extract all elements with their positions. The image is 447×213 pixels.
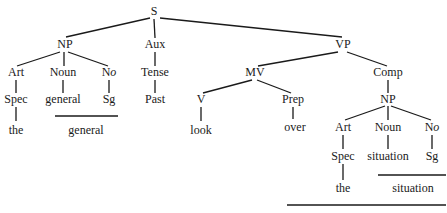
- node-np: NP: [57, 37, 73, 51]
- node-np-comp: NP: [380, 92, 396, 106]
- leaf-the-2: the: [336, 181, 351, 195]
- node-s: S: [151, 4, 158, 18]
- edge-s-aux: [154, 19, 155, 38]
- node-tense: Tense: [141, 65, 169, 79]
- edge-s-vp: [160, 18, 342, 37]
- edge-np2-no: [391, 106, 431, 120]
- edge-vp-mv: [258, 52, 338, 66]
- node-noun-2: Noun: [375, 120, 402, 134]
- node-sg-2: Sg: [426, 149, 439, 163]
- node-general: general: [45, 92, 81, 106]
- node-art-2: Art: [335, 120, 352, 134]
- surface-general: general: [68, 123, 104, 137]
- leaf-the: the: [9, 123, 24, 137]
- node-number-2: No: [425, 120, 440, 134]
- node-mv: MV: [245, 65, 265, 79]
- edge-mv-v: [203, 80, 252, 93]
- node-vp: VP: [335, 37, 351, 51]
- node-comp: Comp: [373, 65, 402, 79]
- syntax-tree-diagram: S NP Aux VP Art Noun No Tense MV Comp Sp…: [0, 0, 447, 213]
- node-sg: Sg: [103, 92, 116, 106]
- node-spec: Spec: [4, 92, 27, 106]
- leaf-over: over: [284, 120, 305, 134]
- node-prep: Prep: [282, 92, 304, 106]
- node-past: Past: [145, 92, 166, 106]
- leaf-look: look: [190, 123, 211, 137]
- node-spec-2: Spec: [331, 149, 354, 163]
- surface-situation: situation: [392, 181, 433, 195]
- node-number: No: [102, 65, 117, 79]
- node-noun: Noun: [50, 65, 77, 79]
- edge-s-np: [66, 18, 150, 37]
- node-art: Art: [8, 65, 25, 79]
- tree-nodes: S NP Aux VP Art Noun No Tense MV Comp Sp…: [4, 4, 439, 195]
- node-aux: Aux: [145, 37, 166, 51]
- tree-edges: [16, 18, 446, 205]
- edge-np2-art: [345, 106, 385, 120]
- node-v: V: [197, 92, 206, 106]
- node-situation: situation: [367, 149, 408, 163]
